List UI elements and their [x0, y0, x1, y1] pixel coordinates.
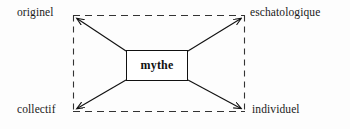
connector-mythe-to-individuel — [188, 80, 241, 109]
connector-mythe-to-eschatologique — [188, 19, 241, 52]
corner-label-eschatologique: eschatologique — [250, 6, 320, 19]
corner-label-individuel: individuel — [252, 103, 300, 116]
corner-label-originel: originel — [17, 6, 54, 19]
connector-mythe-to-collectif — [77, 80, 126, 109]
center-node-label: mythe — [141, 58, 174, 73]
connector-mythe-to-originel — [77, 19, 126, 52]
center-node-box: mythe — [126, 50, 188, 81]
corner-label-collectif: collectif — [17, 103, 56, 116]
diagram-canvas: originel eschatologique collectif indivi… — [0, 0, 350, 129]
